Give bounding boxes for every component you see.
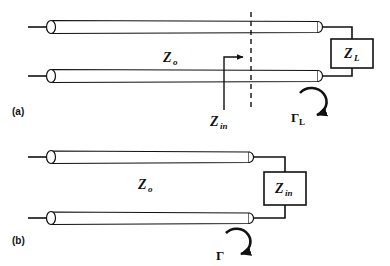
panel-a-top-cable-body [51,21,318,34]
panel-b-bottom-right-cap [249,213,254,224]
panel-b: Z in Z o Γ (b) [12,151,306,264]
panel-b-top-wire [253,157,285,172]
panel-b-bottom-wire [253,205,285,218]
panel-a-input-impedance-subscript: in [220,121,228,131]
panel-a-reflection-coefficient-subscript: L [299,117,305,127]
load-impedance-subscript: L [353,53,360,63]
panel-b-bottom-left-cap [47,212,56,225]
gamma-l-curved-arrow [300,88,327,115]
panel-b-input-impedance-subscript: in [285,188,293,198]
panel-a-load-top-wire [322,27,352,39]
panel-b-input-impedance-symbol: Z [274,181,284,196]
panel-a: Z L Z o Z in Γ L (a) [12,12,373,131]
panel-b-reflection-coefficient-symbol: Γ [216,248,224,263]
panel-a-bottom-left-cap [47,70,56,83]
panel-a-characteristic-impedance-subscript: o [173,57,178,67]
panel-b-characteristic-impedance-symbol: Z [137,177,147,192]
figure-container: Z L Z o Z in Γ L (a) [0,0,390,266]
panel-b-label: (b) [12,235,25,246]
panel-a-top-right-cap [318,22,323,33]
panel-a-characteristic-impedance-symbol: Z [162,50,172,65]
gamma-curved-arrow [226,229,250,254]
panel-a-top-conductor [28,21,323,34]
panel-b-bottom-cable-body [51,212,249,225]
panel-a-top-left-cap [47,21,56,34]
z-in-leader-line [224,57,243,110]
panel-b-top-cable-body [51,151,249,164]
panel-b-top-left-cap [47,151,56,164]
panel-a-input-impedance-symbol: Z [209,114,219,129]
load-impedance-symbol: Z [343,46,353,61]
panel-a-load-bottom-wire [322,68,352,76]
panel-a-bottom-cable-body [51,70,318,83]
panel-b-characteristic-impedance-subscript: o [148,184,153,194]
panel-b-top-conductor [28,151,254,164]
panel-b-top-right-cap [249,152,254,163]
panel-a-bottom-conductor [28,70,323,83]
panel-b-bottom-conductor [28,212,254,225]
panel-a-label: (a) [12,106,24,117]
panel-a-bottom-right-cap [318,71,323,82]
